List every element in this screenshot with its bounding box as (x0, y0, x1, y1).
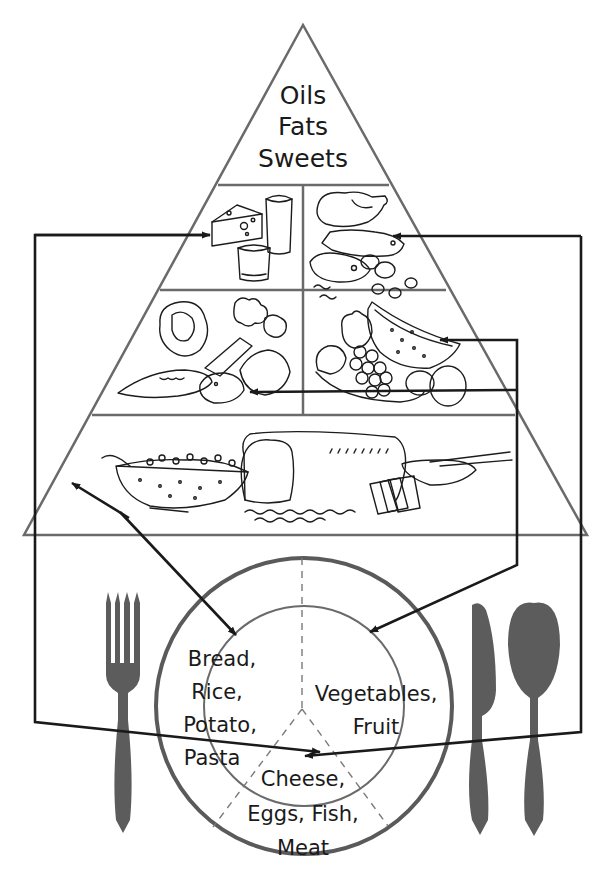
label-oils: Oils (280, 81, 327, 110)
plate-protein-line-1: Cheese, (261, 767, 345, 791)
plate-protein-line-2: Eggs, Fish, (247, 802, 359, 826)
plate-produce-line-2: Fruit (353, 715, 400, 739)
arrow-to-pyramid-fruit (440, 340, 517, 390)
food-pyramid-plate-diagram: Oils Fats Sweets (0, 0, 601, 877)
spoon-icon (508, 603, 560, 836)
knife-icon (469, 603, 496, 835)
plate-produce-line-1: Vegetables, (315, 682, 438, 706)
plate-grains-line-4: Pasta (184, 746, 241, 770)
arrow-to-pyramid-vegetables (250, 390, 517, 392)
fork-icon (106, 592, 140, 833)
plate-grains-line-2: Rice, (191, 680, 243, 704)
plate-grains-line-3: Potato, (183, 713, 257, 737)
plate-section-grains: Bread, Rice, Potato, Pasta (183, 647, 257, 770)
plate-protein-line-3: Meat (277, 836, 329, 860)
grains-illustration (102, 432, 512, 522)
plate-grains-line-1: Bread, (188, 647, 256, 671)
pyramid: Oils Fats Sweets (24, 25, 587, 535)
plate: Bread, Rice, Potato, Pasta Vegetables, F… (156, 558, 452, 860)
label-fats: Fats (278, 112, 328, 141)
label-sweets: Sweets (258, 144, 348, 173)
plate-section-protein: Cheese, Eggs, Fish, Meat (247, 767, 359, 860)
pyramid-top-label: Oils Fats Sweets (258, 81, 348, 173)
protein-illustration (310, 192, 417, 299)
dairy-illustration (212, 196, 292, 282)
plate-section-produce: Vegetables, Fruit (315, 682, 438, 739)
